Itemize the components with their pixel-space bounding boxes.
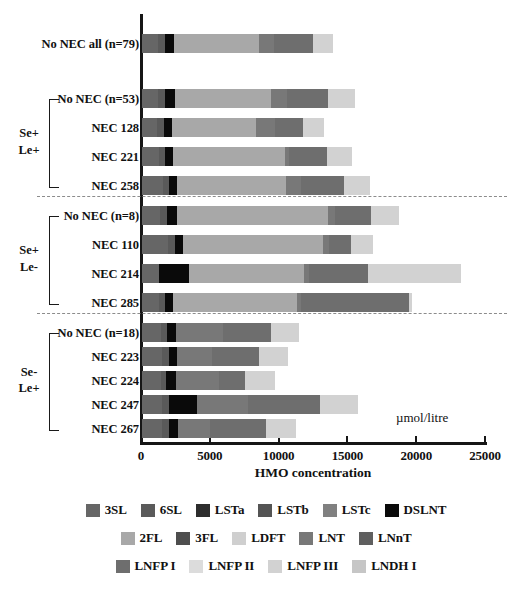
legend-label: 2FL [140, 530, 163, 546]
bar-segment-3sl [142, 235, 168, 254]
bar-segment-lnfp-iii [351, 235, 373, 254]
bar-segment-2fl [189, 264, 303, 283]
bar-segment-lnfp-i [289, 147, 328, 166]
bar-segment-3sl [142, 419, 162, 438]
group-label: Se-Le+ [18, 364, 39, 398]
legend-label: LNFP I [135, 558, 176, 574]
group-label-line2: Le+ [18, 381, 39, 398]
bar-segment-2fl [173, 293, 297, 312]
legend-swatch-icon [176, 532, 190, 545]
x-tick-label-15000: 15000 [332, 448, 364, 464]
bar-row [142, 147, 353, 166]
category-label: NEC 224 [91, 373, 139, 388]
group-label-line1: Se+ [18, 125, 39, 142]
bar-row [142, 395, 358, 414]
bar-segment-3sl [142, 34, 158, 53]
bar-segment-lnt [256, 118, 275, 137]
bar-segment-6sl [163, 176, 170, 195]
legend-swatch-icon [121, 532, 135, 545]
legend-swatch-icon [189, 560, 203, 573]
bar-segment-lnfp-iii [245, 371, 276, 390]
bar-segment-3sl [142, 264, 159, 283]
legend-label: LNDH I [371, 558, 416, 574]
bar-segment-3sl [142, 89, 158, 108]
legend-label: LSTa [215, 502, 244, 518]
x-tick-25000 [484, 436, 486, 442]
bar-row [142, 176, 370, 195]
bar-segment-lnfp-i [248, 395, 320, 414]
legend-row: LNFP ILNFP IILNFP IIILNDH I [46, 554, 486, 578]
bar-segment-lnt [271, 89, 287, 108]
bar-segment-lnfp-iii [313, 34, 334, 53]
legend-swatch-icon [359, 532, 373, 545]
bar-segment-3sl [142, 118, 157, 137]
legend-item-lnfp-ii: LNFP II [189, 558, 254, 574]
bar-segment-dslnt [165, 293, 173, 312]
group-divider [37, 196, 507, 197]
legend-swatch-icon [232, 532, 246, 545]
bar-segment-dslnt [165, 147, 173, 166]
bar-segment-dslnt [166, 371, 176, 390]
bar-row [142, 323, 299, 342]
bar-row [142, 371, 275, 390]
bar-segment-2fl [175, 89, 271, 108]
category-label: NEC 285 [91, 295, 139, 310]
legend-swatch-icon [116, 560, 130, 573]
legend-row: 3SL6SLLSTaLSTbLSTcDSLNT [46, 498, 486, 522]
chart-plot-area: 0500010000150002000025000 No NEC all (n=… [0, 0, 524, 470]
legend-item-lnnt: LNnT [359, 530, 412, 546]
bar-segment-lnfp-iii [320, 395, 358, 414]
bar-segment-dslnt [169, 176, 177, 195]
group-bracket [49, 216, 59, 305]
bar-segment-lnfp-iii [344, 176, 370, 195]
bar-row [142, 206, 399, 225]
bar-segment-lnt [197, 395, 248, 414]
bar-segment-dslnt [167, 323, 176, 342]
bar-segment-dslnt [169, 419, 179, 438]
legend-swatch-icon [141, 504, 155, 517]
group-label-line2: Le+ [18, 142, 39, 159]
bar-segment-lnfp-iii [409, 293, 411, 312]
legend-item-lsta: LSTa [196, 502, 244, 518]
bar-segment-2fl [174, 34, 259, 53]
group-divider [37, 313, 507, 314]
bar-segment-6sl [160, 206, 167, 225]
bar-segment-lnt [178, 419, 210, 438]
legend-item-3fl: 3FL [176, 530, 218, 546]
x-tick-label-20000: 20000 [400, 448, 432, 464]
bar-row [142, 89, 355, 108]
bar-segment-6sl [162, 419, 169, 438]
legend-swatch-icon [196, 504, 210, 517]
category-label: NEC 223 [91, 349, 139, 364]
legend-label: LNFP III [287, 558, 338, 574]
legend-swatch-icon [299, 532, 313, 545]
legend-swatch-icon [268, 560, 282, 573]
bar-segment-lnfp-iii [303, 118, 324, 137]
legend-label: LSTb [277, 502, 308, 518]
legend-swatch-icon [352, 560, 366, 573]
group-label-line2: Le- [19, 259, 39, 276]
bar-segment-dslnt [165, 89, 175, 108]
legend-item-ldft: LDFT [232, 530, 285, 546]
bar-segment-lnt [176, 371, 219, 390]
x-tick-label-5000: 5000 [197, 448, 222, 464]
bar-segment-lnfp-i [301, 293, 410, 312]
bar-row [142, 235, 373, 254]
legend-item-2fl: 2FL [121, 530, 163, 546]
x-axis-line [140, 442, 487, 445]
category-label: NEC 214 [91, 266, 139, 281]
bar-row [142, 264, 461, 283]
bar-segment-6sl [159, 293, 166, 312]
legend-item-lnfp-iii: LNFP III [268, 558, 338, 574]
legend-item-dslnt: DSLNT [385, 502, 447, 518]
bar-segment-dslnt [165, 34, 174, 53]
x-tick-20000 [415, 436, 417, 442]
bar-segment-2fl [177, 206, 328, 225]
bar-row [142, 419, 296, 438]
group-label: Se+Le+ [18, 125, 39, 159]
legend-item-lstc: LSTc [323, 502, 371, 518]
legend-label: LDFT [251, 530, 285, 546]
bar-segment-lnfp-i [223, 323, 271, 342]
group-bracket [49, 333, 59, 431]
legend-label: DSLNT [404, 502, 447, 518]
